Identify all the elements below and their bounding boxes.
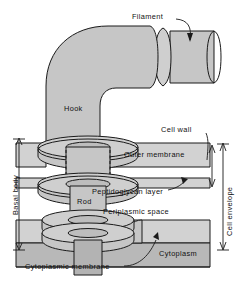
label-cell-envelope: Cell envelope bbox=[226, 187, 233, 236]
label-periplasmic-space: Periplasmic space bbox=[103, 208, 169, 215]
flagellum-diagram bbox=[0, 0, 236, 287]
filament-shape bbox=[155, 28, 221, 86]
label-rod: Rod bbox=[77, 198, 92, 205]
hook-shape bbox=[46, 26, 158, 145]
label-cytoplasm: Cytoplasm bbox=[159, 250, 197, 257]
label-filament: Filament bbox=[132, 13, 163, 20]
label-basal-body: Basal body bbox=[12, 175, 19, 215]
label-cell-wall: Cell wall bbox=[161, 126, 192, 133]
label-peptidoglycan-layer: Peptidoglycan layer bbox=[92, 188, 163, 195]
label-outer-membrane: Outer membrane bbox=[124, 151, 185, 158]
label-hook: Hook bbox=[64, 105, 83, 112]
label-cytoplasmic-membrane: Cytoplasmic membrane bbox=[25, 263, 110, 270]
figure-canvas: Filament Hook Cell wall Outer membrane P… bbox=[0, 0, 236, 287]
